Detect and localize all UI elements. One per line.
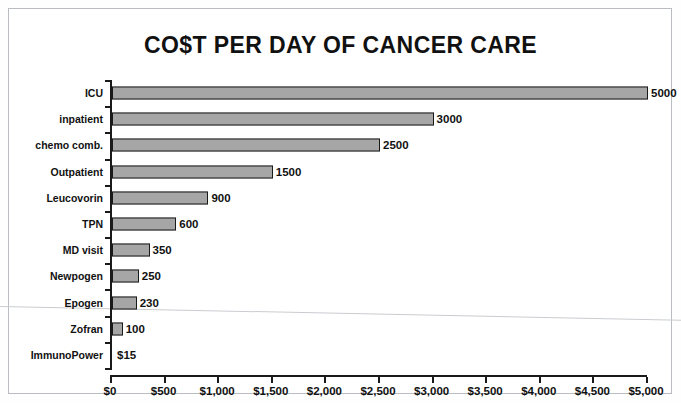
x-axis-tick-label: $3,500 (468, 385, 503, 397)
bar-value-label: 600 (179, 218, 198, 230)
y-axis-tick (105, 185, 112, 187)
category-label: Zofran (70, 323, 103, 335)
x-axis-tick-label: $500 (151, 385, 177, 397)
x-axis-tick-label: $5,000 (628, 385, 663, 397)
bar (112, 139, 380, 152)
bar-value-label: 350 (153, 244, 172, 256)
x-axis-tick-label: $4,500 (575, 385, 610, 397)
bar-row: Outpatient1500 (110, 159, 646, 185)
x-axis-tick-label: $0 (104, 385, 117, 397)
x-axis-tick (164, 377, 166, 383)
category-label: ImmunoPower (31, 349, 103, 361)
category-label: chemo comb. (35, 139, 103, 151)
y-axis-tick (105, 263, 112, 265)
bar-value-label: 250 (142, 270, 161, 282)
category-label: inpatient (59, 113, 103, 125)
y-axis-tick (105, 368, 112, 370)
bar (112, 270, 139, 283)
x-axis-tick (217, 377, 219, 383)
y-axis-tick (105, 211, 112, 213)
bar-row: Epogen230 (110, 289, 646, 315)
bar-row: Leucovorin900 (110, 185, 646, 211)
x-axis-tick-label: $4,000 (521, 385, 556, 397)
y-axis-tick (105, 237, 112, 239)
y-axis-tick (105, 316, 112, 318)
bar (112, 322, 123, 335)
bar-row: Zofran100 (110, 316, 646, 342)
bar-value-label: 230 (140, 297, 159, 309)
y-axis-tick (105, 80, 112, 82)
bar (112, 244, 150, 257)
y-axis-tick (105, 159, 112, 161)
x-axis-tick (324, 377, 326, 383)
bar-row: chemo comb.2500 (110, 132, 646, 158)
x-axis-tick-label: $2,500 (360, 385, 395, 397)
bar-value-label: 1500 (276, 166, 302, 178)
bar-row: ImmunoPower$15 (110, 342, 646, 368)
bar-value-label: 100 (126, 323, 145, 335)
x-axis-tick (592, 377, 594, 383)
chart-page: CO$T PER DAY OF CANCER CARE ICU5000inpat… (0, 0, 681, 403)
bar-row: ICU5000 (110, 80, 646, 106)
y-axis-tick (105, 289, 112, 291)
x-axis-tick (539, 377, 541, 383)
bar-row: inpatient3000 (110, 106, 646, 132)
y-axis-tick (105, 106, 112, 108)
bar-value-label: 2500 (383, 139, 409, 151)
category-label: Leucovorin (46, 192, 103, 204)
x-axis-tick (271, 377, 273, 383)
category-label: Epogen (65, 297, 104, 309)
x-axis-tick (378, 377, 380, 383)
bar-value-label: 3000 (437, 113, 463, 125)
bar (112, 296, 137, 309)
chart-title: CO$T PER DAY OF CANCER CARE (0, 32, 681, 59)
x-axis-tick-label: $1,000 (200, 385, 235, 397)
bar (112, 165, 273, 178)
bar-row: Newpogen250 (110, 263, 646, 289)
plot-area: ICU5000inpatient3000chemo comb.2500Outpa… (110, 80, 646, 368)
category-label: Newpogen (50, 270, 103, 282)
x-axis-tick (110, 377, 112, 383)
x-axis-tick-label: $1,500 (253, 385, 288, 397)
bar (112, 217, 176, 230)
bar (112, 87, 648, 100)
x-axis-tick-label: $3,000 (414, 385, 449, 397)
x-axis-tick (485, 377, 487, 383)
x-axis-tick (432, 377, 434, 383)
bar-row: MD visit350 (110, 237, 646, 263)
bar-value-label: 5000 (651, 87, 677, 99)
bar-value-label: 900 (211, 192, 230, 204)
bar-row: TPN600 (110, 211, 646, 237)
bar (112, 113, 434, 126)
bar-value-label: $15 (117, 349, 136, 361)
category-label: ICU (85, 87, 103, 99)
y-axis-tick (105, 132, 112, 134)
bar (112, 191, 208, 204)
category-label: Outpatient (51, 166, 104, 178)
x-axis-tick-label: $2,000 (307, 385, 342, 397)
x-axis-tick (646, 377, 648, 383)
y-axis-tick (105, 342, 112, 344)
category-label: MD visit (63, 244, 103, 256)
category-label: TPN (82, 218, 103, 230)
x-axis-ticks: $0$500$1,000$1,500$2,000$2,500$3,000$3,5… (110, 377, 647, 403)
